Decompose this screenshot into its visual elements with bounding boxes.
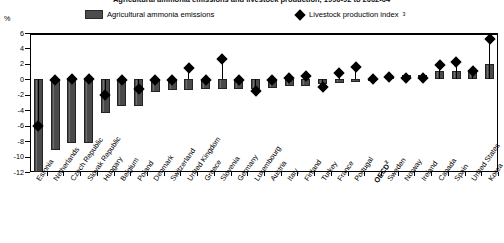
diamond-marker: [217, 54, 228, 65]
y-axis-tick-label: -10: [14, 153, 24, 160]
y-axis-tick-label: -12: [14, 169, 24, 176]
y-axis-tick-label: -2: [18, 91, 24, 98]
y-axis-tick: [25, 33, 30, 34]
diamond-marker: [334, 67, 345, 78]
legend-label-ammonia-emissions: Agricultural ammonia emissions: [107, 10, 214, 19]
bar: [51, 79, 60, 150]
y-axis-tick: [25, 79, 30, 80]
bar: [335, 79, 344, 83]
diamond-marker: [400, 72, 411, 83]
legend-label-livestock-index: Livestock production index: [309, 10, 399, 19]
chart-title: Agricultural ammonia emissions and lives…: [0, 0, 503, 4]
y-axis: 6420-2-4-6-8-10-12: [0, 33, 28, 172]
x-axis-labels: EstoniaNetherlandsCzech RepublicSlovak R…: [0, 176, 503, 243]
y-axis-tick-label: 4: [20, 45, 24, 52]
bar: [84, 79, 93, 142]
y-axis-tick: [25, 157, 30, 158]
chart-legend: Agricultural ammonia emissions Livestock…: [0, 9, 503, 22]
diamond-marker: [451, 56, 462, 67]
y-axis-tick: [25, 110, 30, 111]
diamond-marker: [384, 71, 395, 82]
legend-item-livestock-index: Livestock production index3: [295, 10, 405, 19]
data-series-layer: [30, 33, 498, 172]
diamond-marker: [434, 60, 445, 71]
y-axis-tick: [25, 95, 30, 96]
y-axis-tick: [25, 141, 30, 142]
bar-swatch-icon: [85, 10, 103, 19]
y-axis-tick-label: 0: [20, 76, 24, 83]
y-axis-tick-label: -6: [18, 122, 24, 129]
marker-stem: [489, 39, 490, 79]
bar: [67, 79, 76, 142]
diamond-marker: [350, 61, 361, 72]
bar: [184, 79, 193, 90]
chart-title-text: Agricultural ammonia emissions and lives…: [0, 0, 503, 4]
y-axis-tick-label: 6: [20, 30, 24, 37]
bar: [218, 79, 227, 89]
y-axis-tick-label: 2: [20, 60, 24, 67]
y-axis-tick-label: -4: [18, 107, 24, 114]
legend-item-ammonia-emissions: Agricultural ammonia emissions: [85, 10, 214, 19]
y-axis-tick: [25, 172, 30, 173]
y-axis-tick-label: -8: [18, 138, 24, 145]
y-axis-tick: [25, 48, 30, 49]
diamond-swatch-icon: [294, 9, 305, 20]
diamond-marker: [183, 62, 194, 73]
bar: [351, 79, 360, 82]
y-axis-tick: [25, 64, 30, 65]
diamond-marker: [484, 34, 495, 45]
diamond-marker: [367, 74, 378, 85]
y-axis-tick: [25, 126, 30, 127]
legend-footnote-marker: 3: [403, 12, 406, 17]
